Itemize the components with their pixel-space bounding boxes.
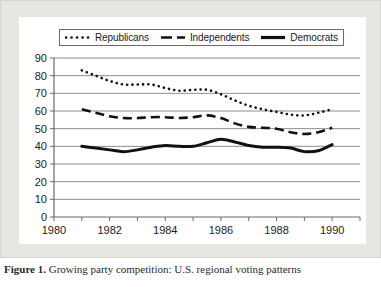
y-axis-tick-labels: 0102030405060708090 — [35, 52, 47, 223]
legend-item-republicans: Republicans — [65, 33, 149, 43]
y-tick-label: 0 — [41, 211, 47, 223]
x-axis-tick-labels: 198019821984198619881990 — [42, 224, 345, 236]
y-tick-label: 20 — [35, 176, 47, 188]
chart-legend: RepublicansIndependentsDemocrats — [59, 29, 344, 46]
caption-text: Growing party competition: U.S. regional… — [49, 263, 301, 275]
axes-group — [50, 58, 360, 221]
plot-area: 0102030405060708090 19801982198419861988… — [19, 17, 366, 244]
legend-item-independents: Independents — [160, 33, 249, 43]
series-line-independents — [82, 109, 332, 134]
y-tick-label: 70 — [35, 87, 47, 99]
gridlines-group — [54, 58, 360, 199]
legend-label: Democrats — [290, 33, 337, 43]
x-tick-label: 1986 — [209, 224, 233, 236]
y-tick-label: 90 — [35, 52, 47, 64]
caption-label: Figure 1. — [4, 263, 46, 275]
legend-swatch-dotted-icon — [65, 33, 91, 42]
figure-frame: 0102030405060708090 19801982198419861988… — [0, 0, 381, 258]
line-chart-svg: 0102030405060708090 19801982198419861988… — [19, 17, 366, 244]
legend-swatch-solid-icon — [260, 33, 286, 42]
x-tick-label: 1984 — [153, 224, 177, 236]
series-line-democrats — [82, 139, 332, 152]
chart-panel: 0102030405060708090 19801982198419861988… — [19, 17, 366, 244]
y-tick-label: 80 — [35, 70, 47, 82]
x-tick-label: 1990 — [320, 224, 344, 236]
x-tick-label: 1982 — [97, 224, 121, 236]
figure-caption: Figure 1. Growing party competition: U.S… — [0, 262, 381, 287]
y-tick-label: 50 — [35, 123, 47, 135]
y-tick-label: 60 — [35, 105, 47, 117]
y-tick-label: 40 — [35, 140, 47, 152]
legend-swatch-dashed-icon — [160, 33, 186, 42]
legend-label: Republicans — [95, 33, 149, 43]
x-tick-label: 1980 — [42, 224, 66, 236]
y-tick-label: 30 — [35, 158, 47, 170]
legend-label: Independents — [190, 33, 249, 43]
y-tick-label: 10 — [35, 193, 47, 205]
x-tick-label: 1988 — [264, 224, 288, 236]
legend-item-democrats: Democrats — [260, 33, 337, 43]
